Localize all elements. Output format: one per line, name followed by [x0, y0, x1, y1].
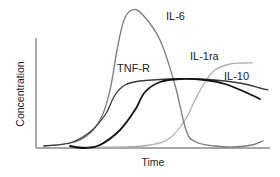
cytokine-concentration-chart: IL-6TNF-RIL-10IL-1ra Time Concentration: [0, 0, 280, 177]
axes: [36, 38, 270, 148]
series-label-il-6: IL-6: [166, 10, 185, 22]
series-labels: IL-6TNF-RIL-10IL-1ra: [117, 10, 249, 82]
x-axis-label: Time: [142, 156, 165, 168]
series-label-il-1ra: IL-1ra: [190, 50, 220, 62]
series-label-tnf-r: TNF-R: [117, 62, 150, 74]
y-axis-label: Concentration: [14, 61, 26, 127]
series-line-tnf-r: [44, 79, 268, 146]
series-line-il-10: [70, 79, 260, 148]
series-label-il-10: IL-10: [224, 70, 249, 82]
